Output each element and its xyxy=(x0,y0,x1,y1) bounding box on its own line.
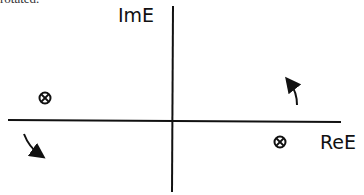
imaginary-axis-label: ImE xyxy=(118,4,154,26)
complex-plane-diagram xyxy=(0,0,364,195)
rotation-arrow-right-icon xyxy=(290,83,297,105)
pole-left-icon xyxy=(40,93,51,104)
rotation-arrow-left-icon xyxy=(24,134,39,154)
imaginary-axis xyxy=(172,6,173,192)
real-axis-label: ReE xyxy=(320,131,356,153)
pole-right-icon xyxy=(275,137,286,148)
real-axis xyxy=(8,120,341,122)
